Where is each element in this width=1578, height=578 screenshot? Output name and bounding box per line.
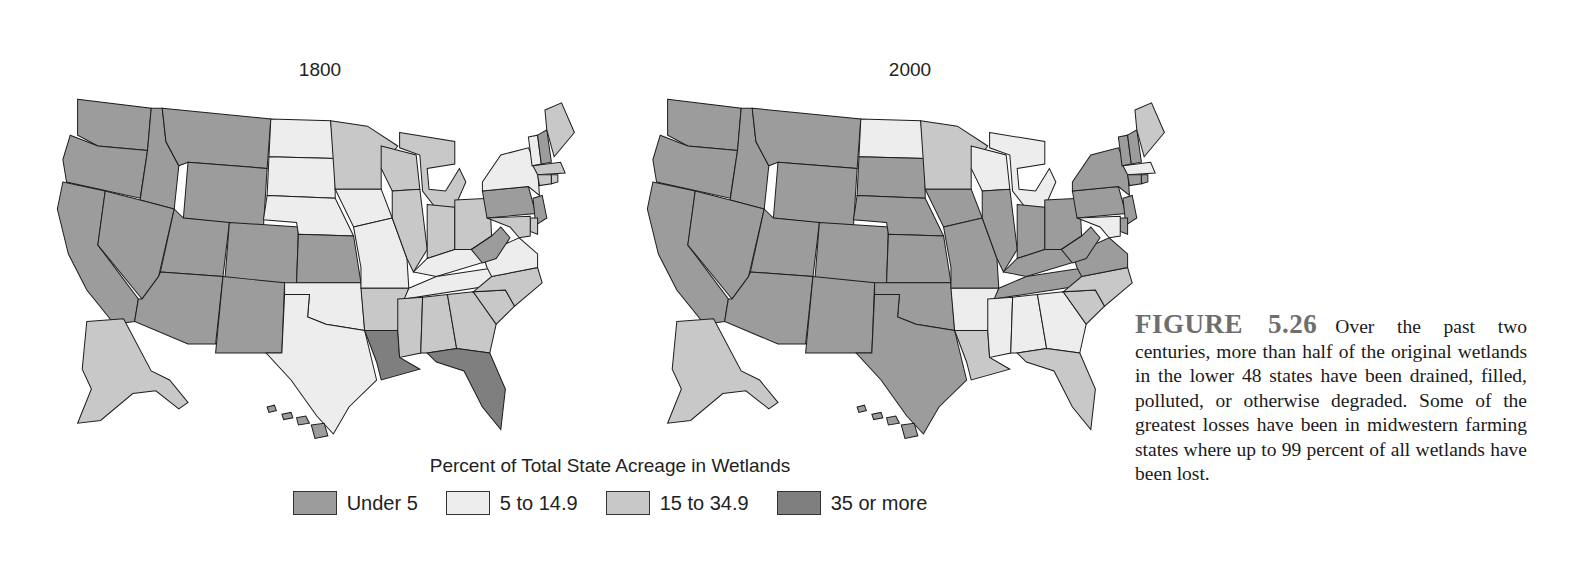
state-wy	[183, 162, 267, 227]
legend-item-under5: Under 5	[293, 491, 418, 515]
map-1800: 1800	[40, 55, 600, 445]
state-de	[530, 218, 537, 234]
state-pa	[1072, 187, 1125, 219]
figure-caption-text: Over the past two centuries, more than h…	[1135, 316, 1527, 484]
state-wy	[773, 162, 857, 227]
legend-item-35plus: 35 or more	[777, 491, 928, 515]
state-nd	[269, 119, 335, 159]
state-fl	[1017, 349, 1095, 430]
legend-label-35plus: 35 or more	[831, 492, 928, 515]
legend-label-15to35: 15 to 34.9	[660, 492, 749, 515]
state-ri	[1141, 175, 1147, 184]
state-ct	[1128, 175, 1142, 186]
us-map-1800	[40, 55, 600, 445]
state-nd	[859, 119, 925, 159]
legend-swatch-35plus	[777, 491, 821, 515]
figure-label: FIGURE 5.26	[1135, 309, 1317, 339]
state-co	[225, 223, 299, 286]
legend-swatch-15to35	[606, 491, 650, 515]
state-mt	[162, 108, 271, 168]
legend-title: Percent of Total State Acreage in Wetlan…	[270, 455, 950, 477]
legend-items: Under 5 5 to 14.9 15 to 34.9 35 or more	[270, 491, 950, 515]
state-ri	[551, 175, 557, 184]
state-mt	[752, 108, 861, 168]
state-co	[815, 223, 889, 286]
state-sd	[267, 157, 335, 198]
legend-swatch-under5	[293, 491, 337, 515]
legend: Percent of Total State Acreage in Wetlan…	[270, 455, 950, 515]
state-ms	[398, 297, 423, 357]
state-fl	[427, 349, 505, 430]
map-2000: 2000	[630, 55, 1190, 445]
state-nm	[216, 277, 285, 354]
us-map-2000	[630, 55, 1190, 445]
legend-swatch-5to15	[446, 491, 490, 515]
state-ks	[297, 234, 361, 283]
figure-caption: FIGURE 5.26Over the past two centuries, …	[1135, 312, 1527, 487]
legend-label-under5: Under 5	[347, 492, 418, 515]
state-ms	[988, 297, 1013, 357]
state-ct	[538, 175, 552, 186]
state-sd	[857, 157, 925, 198]
state-nm	[806, 277, 875, 354]
state-pa	[482, 187, 535, 219]
legend-label-5to15: 5 to 14.9	[500, 492, 578, 515]
state-de	[1120, 218, 1127, 234]
legend-item-5to15: 5 to 14.9	[446, 491, 578, 515]
state-ks	[887, 234, 951, 283]
legend-item-15to35: 15 to 34.9	[606, 491, 749, 515]
